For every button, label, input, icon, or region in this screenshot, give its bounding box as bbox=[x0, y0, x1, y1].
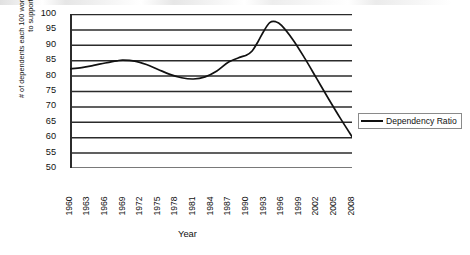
y-axis-tick-label: 65 bbox=[30, 117, 56, 126]
y-axis-tick-label: 100 bbox=[30, 9, 56, 18]
x-axis-tick-label: 1975 bbox=[153, 176, 162, 216]
y-axis-tick-label: 95 bbox=[30, 24, 56, 33]
legend-item-label: Dependency Ratio bbox=[386, 116, 457, 126]
y-axis-tick-label: 55 bbox=[30, 148, 56, 157]
x-axis-tick-label: 1966 bbox=[100, 176, 109, 216]
gridlines bbox=[70, 15, 352, 169]
chart-legend: Dependency Ratio bbox=[358, 113, 462, 129]
scan-artifact bbox=[0, 0, 470, 5]
y-axis-tick-label: 70 bbox=[30, 101, 56, 110]
y-axis-tick-label: 50 bbox=[30, 163, 56, 172]
x-axis-tick-label: 1993 bbox=[259, 176, 268, 216]
x-axis-tick-label: 1981 bbox=[188, 176, 197, 216]
x-axis-tick-label: 1999 bbox=[294, 176, 303, 216]
y-axis-tick-label: 85 bbox=[30, 55, 56, 64]
y-axis-tick-label: 75 bbox=[30, 86, 56, 95]
x-axis-tick-label: 2008 bbox=[347, 176, 356, 216]
data-series-group bbox=[70, 21, 352, 136]
y-axis-tick-label: 80 bbox=[30, 71, 56, 80]
plot-area bbox=[70, 14, 352, 168]
x-axis-tick-label: 1960 bbox=[65, 176, 74, 216]
legend-line-swatch bbox=[361, 120, 383, 122]
x-axis-tick-label: 1972 bbox=[136, 176, 145, 216]
x-axis-tick-label: 1963 bbox=[83, 176, 92, 216]
y-axis-tick-labels: 10095908580757065605550 bbox=[28, 0, 56, 255]
x-axis-tick-label: 1984 bbox=[206, 176, 215, 216]
dependency-ratio-chart: # of dependents each 100 working age adu… bbox=[0, 0, 470, 255]
x-axis-tick-label: 2002 bbox=[312, 176, 321, 216]
x-axis-title: Year bbox=[178, 228, 197, 239]
plot-svg bbox=[70, 14, 352, 168]
y-axis-tick-label: 90 bbox=[30, 40, 56, 49]
x-axis-tick-label: 1969 bbox=[118, 176, 127, 216]
x-axis-tick-label: 1978 bbox=[171, 176, 180, 216]
x-axis-tick-label: 1987 bbox=[224, 176, 233, 216]
y-axis-tick-label: 60 bbox=[30, 132, 56, 141]
x-axis-tick-label: 2005 bbox=[329, 176, 338, 216]
x-axis-tick-labels: 1960196319661969197219751978198119841987… bbox=[70, 170, 352, 216]
x-axis-tick-label: 1990 bbox=[241, 176, 250, 216]
x-axis-tick-label: 1996 bbox=[277, 176, 286, 216]
